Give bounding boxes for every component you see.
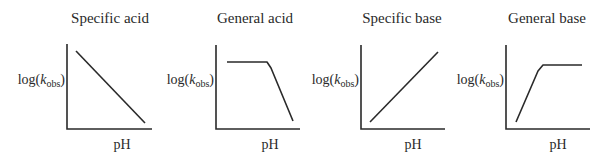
y-axis-label: log(kobs) xyxy=(312,72,360,89)
x-axis-label: pH xyxy=(261,137,278,152)
y-axis-label: log(kobs) xyxy=(457,72,505,89)
rate-curve xyxy=(227,62,293,121)
x-axis-label: pH xyxy=(404,137,421,152)
rate-curve xyxy=(76,51,145,123)
x-axis-label: pH xyxy=(549,137,566,152)
y-axis-label: log(kobs) xyxy=(18,72,66,89)
panel-title: Specific acid xyxy=(71,10,149,26)
panel-specific-base: Specific base log(kobs) pH xyxy=(312,10,445,152)
panel-general-acid: General acid log(kobs) pH xyxy=(167,10,300,152)
panel-specific-acid: Specific acid log(kobs) pH xyxy=(18,10,152,152)
panel-title: General acid xyxy=(217,10,294,26)
panel-general-base: General base log(kobs) pH xyxy=(457,10,590,152)
ph-rate-profile-diagram: Specific acid log(kobs) pH General acid … xyxy=(0,0,609,157)
x-axis-label: pH xyxy=(113,137,130,152)
y-axis-label: log(kobs) xyxy=(167,72,215,89)
rate-curve xyxy=(516,65,582,122)
axes xyxy=(216,45,300,129)
panel-title: Specific base xyxy=(362,10,442,26)
rate-curve xyxy=(370,52,438,122)
panel-title: General base xyxy=(508,10,586,26)
